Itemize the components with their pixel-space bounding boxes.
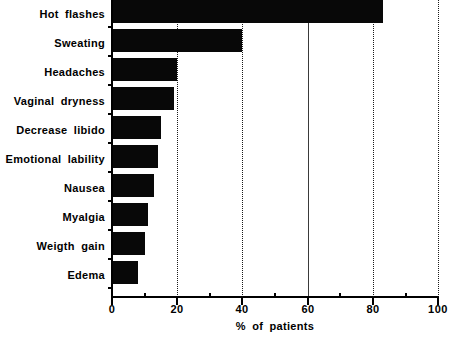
x-tick-minor-30 [209, 293, 211, 297]
bar-row [112, 0, 438, 23]
category-label-headaches: Headaches [44, 66, 105, 78]
x-tick-label-60: 60 [301, 303, 314, 315]
category-label-myalgia: Myalgia [63, 211, 105, 223]
bar-myalgia [112, 203, 148, 226]
bar-headaches [112, 58, 177, 81]
bar-row [112, 145, 438, 168]
bar-row [112, 29, 438, 52]
x-tick-label-80: 80 [366, 303, 379, 315]
category-label-weigth-gain: Weigth gain [37, 240, 105, 252]
category-label-hot-flashes: Hot flashes [39, 8, 105, 20]
category-label-sweating: Sweating [54, 37, 105, 49]
category-label-emotional-lability: Emotional lability [6, 153, 105, 165]
bar-row [112, 232, 438, 255]
plot-area [112, 0, 438, 297]
y-axis-line [111, 0, 113, 297]
x-axis-title: % of patients [112, 320, 438, 332]
bar-hot-flashes [112, 0, 383, 23]
x-tick-minor-90 [405, 293, 407, 297]
bar-emotional-lability [112, 145, 158, 168]
gridline-100 [438, 0, 439, 297]
category-label-vaginal-dryness: Vaginal dryness [14, 95, 105, 107]
category-label-nausea: Nausea [64, 182, 105, 194]
bar-weigth-gain [112, 232, 145, 255]
category-label-decrease-libido: Decrease libido [16, 124, 105, 136]
x-tick-label-0: 0 [109, 303, 116, 315]
bar-row [112, 203, 438, 226]
x-tick-label-100: 100 [428, 303, 448, 315]
bar-decrease-libido [112, 116, 161, 139]
x-tick-minor-50 [274, 293, 276, 297]
x-tick-minor-10 [144, 293, 146, 297]
bar-row [112, 58, 438, 81]
bar-row [112, 116, 438, 139]
x-tick-label-20: 20 [170, 303, 183, 315]
bar-row [112, 261, 438, 284]
bar-row [112, 174, 438, 197]
bar-edema [112, 261, 138, 284]
category-axis-labels: Hot flashes Sweating Headaches Vaginal d… [0, 0, 105, 297]
bar-row [112, 87, 438, 110]
x-tick-minor-70 [339, 293, 341, 297]
category-label-edema: Edema [67, 269, 105, 281]
x-tick-label-40: 40 [235, 303, 248, 315]
bar-sweating [112, 29, 242, 52]
bar-nausea [112, 174, 154, 197]
bar-vaginal-dryness [112, 87, 174, 110]
bar-chart: Hot flashes Sweating Headaches Vaginal d… [0, 0, 451, 339]
